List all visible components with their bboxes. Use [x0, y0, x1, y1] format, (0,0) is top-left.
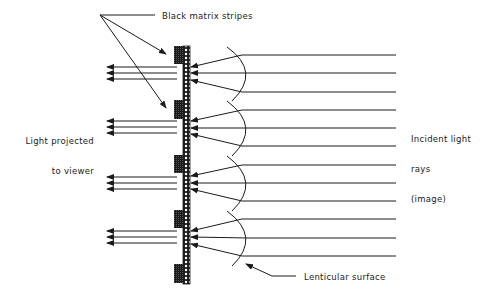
lenticular-leader: [246, 264, 296, 276]
black-matrix-leader: [100, 15, 166, 108]
projected-light-line2: to viewer: [25, 166, 94, 176]
black-matrix-label: Black matrix stripes: [162, 11, 253, 21]
lenticular-surface-label: Lenticular surface: [304, 272, 386, 282]
incident-light-line3: (image): [411, 194, 471, 204]
lenticular-lenses: [227, 47, 246, 266]
incident-rays: [242, 55, 396, 256]
black-matrix-stripes: [174, 46, 183, 283]
incident-light-label: Incident light rays (image): [411, 114, 471, 214]
projected-light-label: Light projected to viewer: [25, 116, 94, 186]
projected-light-line1: Light projected: [25, 136, 94, 146]
refracted-rays: [191, 55, 249, 256]
output-rays: [107, 67, 177, 243]
diffuser-strip: [183, 46, 190, 284]
incident-light-line1: Incident light: [411, 134, 471, 144]
incident-light-line2: rays: [411, 164, 471, 174]
